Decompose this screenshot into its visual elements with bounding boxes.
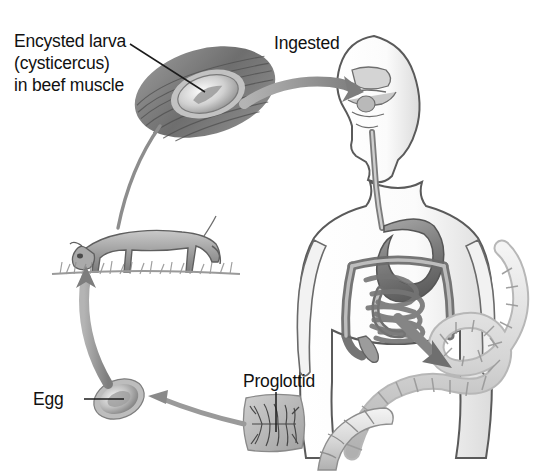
label-egg: Egg bbox=[33, 388, 64, 410]
arrow-beef-to-human bbox=[244, 76, 364, 104]
label-encysted-larva: Encysted larva (cysticercus) in beef mus… bbox=[14, 30, 126, 96]
label-ingested: Ingested bbox=[274, 32, 340, 54]
leader-cow-to-beef bbox=[118, 126, 160, 228]
label-proglottid: Proglottid bbox=[243, 370, 315, 392]
arrow-proglottid-to-egg bbox=[148, 390, 244, 424]
arrow-intestine-to-worm bbox=[398, 318, 452, 368]
leader-cysticercus bbox=[130, 44, 205, 92]
life-cycle-diagram: Encysted larva (cysticercus) in beef mus… bbox=[0, 0, 541, 474]
arrow-egg-to-cow bbox=[76, 266, 108, 384]
